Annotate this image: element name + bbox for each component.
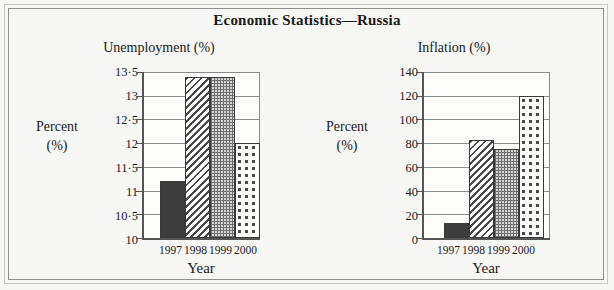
y-tick-mark (136, 72, 143, 73)
y-tick-mark (416, 238, 423, 239)
y-tick-mark (416, 191, 423, 192)
x-axis-title-inflation: Year (422, 260, 550, 277)
y-tick-mark (416, 143, 423, 144)
bar-group-inflation (424, 72, 550, 238)
bar-1998[interactable] (185, 77, 210, 238)
y-tick-mark (136, 214, 143, 215)
y-tick-label: 40 (406, 184, 419, 199)
chart-figure: Economic Statistics—Russia Unemployment … (0, 0, 614, 290)
x-tick-label: 1998 (183, 244, 208, 256)
x-tick-label: 1998 (461, 244, 486, 256)
bar-1997[interactable] (444, 223, 469, 238)
y-tick-labels-inflation: 140 120 100 80 60 40 20 0 (360, 72, 418, 240)
x-tick-labels-unemployment: 1997 1998 1999 2000 (158, 244, 258, 256)
x-tick-label: 1997 (158, 244, 183, 256)
y-tick-mark (136, 119, 143, 120)
y-tick-label: 20 (406, 208, 419, 223)
x-tick-label: 1999 (486, 244, 511, 256)
bar-1999[interactable] (210, 77, 235, 238)
x-tick-label: 2000 (511, 244, 536, 256)
y-tick-mark (136, 191, 143, 192)
panel-inflation: Inflation (%) Percent (%) 140 120 100 80… (304, 40, 604, 280)
y-tick-mark (416, 96, 423, 97)
bar-2000[interactable] (235, 143, 260, 238)
y-tick-label: 13·5 (115, 65, 138, 80)
bar-1998[interactable] (469, 140, 494, 238)
y-tick-label: 11·5 (116, 160, 138, 175)
x-tick-label: 2000 (233, 244, 258, 256)
y-tick-label: 0 (412, 233, 418, 248)
y-tick-mark (416, 72, 423, 73)
bar-1997[interactable] (160, 181, 185, 238)
y-tick-label: 10 (126, 233, 139, 248)
y-tick-label: 11 (126, 184, 138, 199)
y-tick-labels-unemployment: 13·5 13 12·5 12 11·5 11 10·5 10 (80, 72, 138, 240)
plot-area-unemployment (142, 72, 260, 240)
y-tick-label: 10·5 (115, 208, 138, 223)
y-tick-mark (416, 214, 423, 215)
y-tick-mark (136, 238, 143, 239)
y-tick-label: 60 (406, 160, 419, 175)
panel-unemployment: Unemployment (%) Percent (%) 13·5 13 12·… (14, 40, 304, 280)
y-tick-mark (416, 119, 423, 120)
y-tick-mark (136, 143, 143, 144)
x-tick-label: 1997 (436, 244, 461, 256)
y-tick-mark (136, 167, 143, 168)
panel-inflation-subtitle: Inflation (%) (304, 40, 604, 56)
bar-1999[interactable] (494, 149, 519, 238)
plot-area-inflation (422, 72, 550, 240)
bar-group-unemployment (144, 72, 260, 238)
x-tick-labels-inflation: 1997 1998 1999 2000 (436, 244, 536, 256)
y-tick-label: 12·5 (115, 112, 138, 127)
x-axis-title-unemployment: Year (142, 260, 260, 277)
bar-2000[interactable] (519, 96, 544, 238)
x-tick-label: 1999 (208, 244, 233, 256)
y-tick-mark (416, 167, 423, 168)
figure-title: Economic Statistics—Russia (0, 12, 614, 29)
y-tick-mark (136, 96, 143, 97)
panel-unemployment-subtitle: Unemployment (%) (14, 40, 304, 56)
